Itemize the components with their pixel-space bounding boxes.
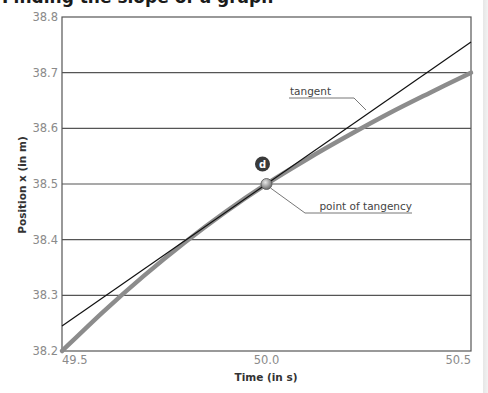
- y-tick-label: 38.3: [32, 288, 58, 302]
- y-tick-label: 38.6: [32, 121, 58, 135]
- y-axis-label: Position x (in m): [16, 136, 28, 233]
- x-tick-label: 50.0: [254, 353, 280, 367]
- marker-badge-label: d: [259, 159, 266, 170]
- y-ticks: 38.238.338.438.538.638.738.8: [32, 10, 58, 358]
- tangent-leader-line: [289, 98, 366, 110]
- x-ticks: 49.550.050.5: [62, 353, 471, 367]
- y-tick-label: 38.8: [32, 10, 58, 24]
- tangent-label: tangent: [290, 85, 331, 97]
- chart: 38.238.338.438.538.638.738.8 49.550.050.…: [0, 0, 488, 393]
- y-tick-label: 38.2: [32, 344, 58, 358]
- x-tick-label: 50.5: [445, 353, 471, 367]
- tangency-point-marker: [261, 179, 272, 190]
- y-tick-label: 38.5: [32, 177, 58, 191]
- y-tick-label: 38.7: [32, 66, 58, 80]
- point-of-tangency-label: point of tangency: [319, 200, 412, 212]
- x-axis-label: Time (in s): [234, 371, 297, 383]
- y-tick-label: 38.4: [32, 233, 58, 247]
- x-tick-label: 49.5: [62, 353, 88, 367]
